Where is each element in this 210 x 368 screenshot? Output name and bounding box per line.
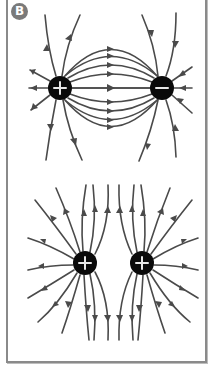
like-charges-field-lines [28, 185, 198, 340]
dipole-field-lines [29, 13, 192, 161]
field-lines-diagram [0, 0, 210, 368]
